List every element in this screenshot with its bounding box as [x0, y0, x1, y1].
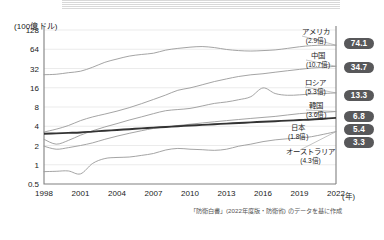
- series-label-america: アメリカ(2.9倍): [302, 28, 330, 45]
- value-badge-china: 34.7: [344, 62, 374, 73]
- value-badge-russia: 13.3: [344, 90, 374, 101]
- series-label-russia: ロシア(5.3倍): [305, 79, 326, 96]
- x-tick: 2013: [218, 189, 236, 198]
- y-tick: 128: [26, 26, 40, 35]
- series-label-multiplier: (3.6倍): [306, 111, 327, 120]
- x-tick: 2004: [108, 189, 126, 198]
- x-tick: 2016: [254, 189, 272, 198]
- x-axis-unit-label: (年): [342, 190, 355, 201]
- x-tick: 2010: [181, 189, 199, 198]
- series-label-name: アメリカ: [302, 27, 330, 36]
- series-label-multiplier: (2.9倍): [302, 37, 330, 46]
- value-badge-japan: 5.4: [344, 124, 374, 135]
- source-footnote: 「防衛白書」(2022年度版・防衛省) のデータを基に作成: [190, 206, 342, 215]
- series-label-name: ロシア: [305, 78, 326, 87]
- series-label-multiplier: (5.3倍): [305, 88, 326, 97]
- series-label-name: 中国: [311, 51, 325, 60]
- gridlines: [44, 30, 336, 165]
- series-label-multiplier: (1.8倍): [288, 133, 309, 142]
- series-label-name: 韓国: [309, 101, 323, 110]
- x-tick: 2007: [145, 189, 163, 198]
- y-tick: 2: [35, 142, 40, 151]
- value-badge-australia: 3.3: [344, 137, 374, 148]
- series-label-china: 中国(10.7倍): [306, 52, 330, 69]
- series-label-australia: オーストラリア(4.3倍): [286, 148, 335, 165]
- value-badge-america: 74.1: [344, 38, 374, 49]
- y-tick: 0.5: [28, 180, 40, 189]
- series-label-name: オーストラリア: [286, 147, 335, 156]
- series-label-multiplier: (4.3倍): [286, 157, 335, 166]
- series-label-multiplier: (10.7倍): [306, 61, 330, 70]
- x-tick: 2001: [72, 189, 90, 198]
- series-label-name: 日本: [291, 123, 305, 132]
- x-tick: 1998: [35, 189, 53, 198]
- x-tick: 2019: [291, 189, 309, 198]
- y-tick: 16: [30, 84, 39, 93]
- y-tick: 8: [35, 103, 40, 112]
- y-tick: 4: [35, 122, 40, 131]
- value-badge-korea: 6.8: [344, 111, 374, 122]
- y-axis-tick-labels: 12864321684210.5: [26, 26, 40, 189]
- x-axis-tick-labels: 199820012004200720102013201620192022: [35, 189, 345, 198]
- y-tick: 64: [30, 45, 39, 54]
- series-label-japan: 日本(1.8倍): [288, 124, 309, 141]
- series-label-korea: 韓国(3.6倍): [306, 102, 327, 119]
- y-tick: 1: [35, 161, 40, 170]
- y-tick: 32: [30, 65, 39, 74]
